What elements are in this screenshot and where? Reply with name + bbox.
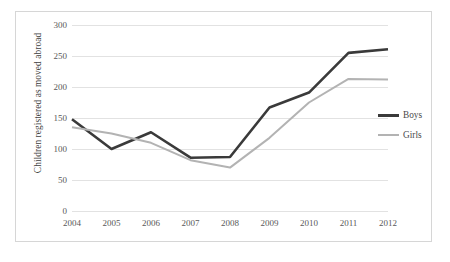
legend-swatch-boys-icon — [378, 114, 399, 117]
legend-entry-girls: Girls — [378, 125, 444, 145]
chart-frame: Children registered as moved abroad 0501… — [15, 11, 432, 242]
x-tick-label: 2009 — [261, 218, 279, 228]
x-tick-label: 2006 — [142, 218, 160, 228]
series-lines — [72, 25, 388, 211]
y-tick-label: 50 — [58, 175, 67, 185]
x-tick-label: 2004 — [63, 218, 81, 228]
x-tick-label: 2008 — [221, 218, 239, 228]
y-axis-title: Children registered as moved abroad — [33, 18, 43, 188]
plot-area: 050100150200250300 200420052006200720082… — [72, 25, 388, 211]
x-tick-label: 2005 — [103, 218, 121, 228]
y-tick-label: 100 — [54, 144, 68, 154]
legend-label-boys: Boys — [403, 110, 422, 120]
x-tick-label: 2011 — [340, 218, 358, 228]
y-tick-label: 300 — [54, 20, 68, 30]
legend-label-girls: Girls — [403, 130, 422, 140]
legend-entry-boys: Boys — [378, 105, 444, 125]
series-line-boys — [72, 49, 388, 157]
y-tick-label: 200 — [54, 82, 68, 92]
y-tick-label: 0 — [63, 206, 68, 216]
chart-legend: Boys Girls — [378, 105, 444, 145]
y-tick-label: 250 — [54, 51, 68, 61]
legend-swatch-girls-icon — [378, 134, 399, 136]
series-line-girls — [72, 79, 388, 168]
gridline — [72, 211, 388, 212]
y-tick-label: 150 — [54, 113, 68, 123]
x-tick-label: 2010 — [300, 218, 318, 228]
x-tick-label: 2007 — [182, 218, 200, 228]
x-tick-label: 2012 — [379, 218, 397, 228]
chart-figure: Children registered as moved abroad 0501… — [0, 0, 450, 262]
